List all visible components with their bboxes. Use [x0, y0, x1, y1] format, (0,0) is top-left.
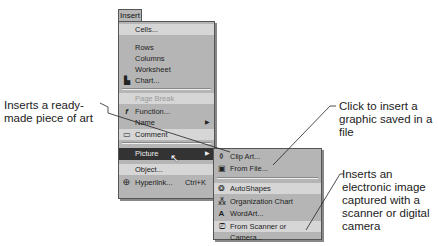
callout-clip-art: Inserts a ready-made piece of art	[4, 99, 109, 125]
callout-scanner: Inserts an electronic image captured wit…	[342, 168, 438, 233]
callout-from-file: Click to insert a graphic saved in a fil…	[339, 100, 437, 139]
